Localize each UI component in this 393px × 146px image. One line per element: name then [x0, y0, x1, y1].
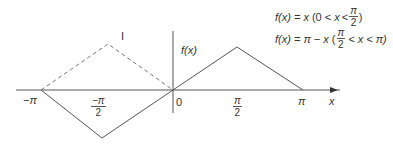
equation-2-cond-mid: < x < π)	[348, 33, 387, 45]
equation-2-frac-den: 2	[338, 39, 344, 50]
x-axis-arrow-icon	[330, 87, 338, 93]
tick-half-pi-numerator: π	[233, 96, 242, 107]
tick-pi: π	[298, 96, 305, 107]
function-solid-line	[41, 47, 303, 138]
origin-label: 0	[176, 97, 182, 108]
equation-1-frac-num: π	[349, 6, 358, 17]
equation-1-cond-close: )	[359, 11, 363, 23]
equation-2: f(x) = π − x ( π 2 < x < π)	[275, 28, 387, 50]
tick-half-pi: π 2	[233, 96, 242, 118]
equation-1-fraction: π 2	[349, 6, 358, 28]
equation-1-cond-var: x	[334, 11, 340, 23]
dashed-marker-label: I	[121, 31, 124, 42]
equation-2-lhs: f(x) = π − x	[275, 33, 329, 45]
equation-2-cond-open: (	[332, 33, 336, 45]
equation-2-frac-num: π	[337, 28, 346, 39]
equation-1-lhs: f(x) = x	[275, 11, 309, 23]
tick-neg-pi: −π	[23, 95, 37, 106]
equation-1-cond-lt: <	[342, 11, 348, 23]
equation-1-frac-den: 2	[351, 17, 357, 28]
equation-1: f(x) = x (0 < x < π 2 )	[275, 6, 363, 28]
tick-half-pi-denominator: 2	[235, 107, 241, 118]
equation-1-cond-open: (0 <	[312, 11, 331, 23]
tick-neg-half-pi-denominator: 2	[95, 107, 101, 118]
tick-neg-half-pi-numerator: −π	[91, 96, 106, 107]
function-dashed-line	[41, 44, 173, 90]
tick-neg-half-pi: −π 2	[91, 96, 106, 118]
x-axis-label: x	[329, 96, 335, 107]
equation-2-fraction: π 2	[337, 28, 346, 50]
y-axis-label: f(x)	[181, 45, 197, 56]
